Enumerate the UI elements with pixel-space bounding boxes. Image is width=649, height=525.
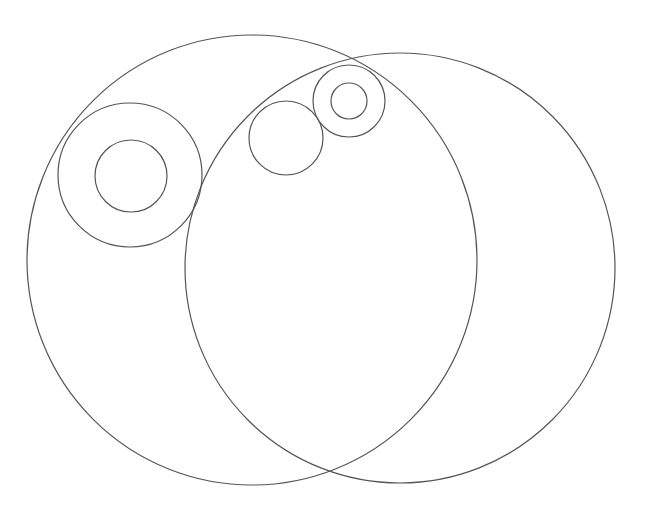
circle-mid-left-outer bbox=[58, 103, 202, 247]
circle-large-right bbox=[185, 53, 615, 483]
circle-mid-left-inner bbox=[95, 140, 167, 212]
circles-diagram bbox=[0, 0, 649, 525]
circle-top-right-outer bbox=[313, 65, 385, 137]
circle-top-right-inner bbox=[331, 83, 367, 119]
circle-group bbox=[27, 35, 615, 485]
circle-large-left bbox=[27, 35, 477, 485]
circle-small-top bbox=[249, 101, 323, 175]
